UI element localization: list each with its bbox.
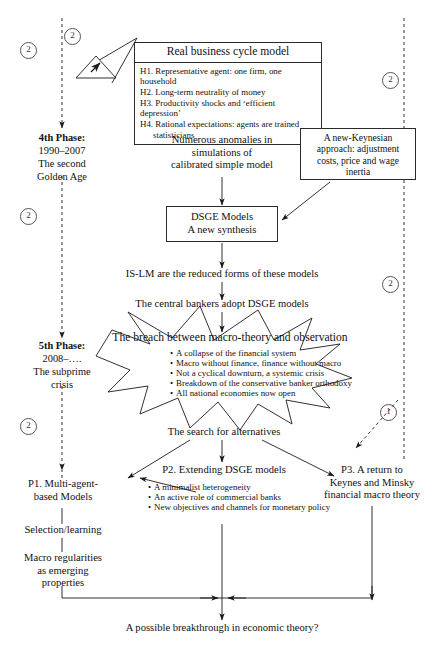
anomalies-line-2: simulations of (140, 147, 304, 160)
diagram-canvas: Real business cycle model H1. Representa… (0, 0, 433, 652)
dsge-models-box: DSGE Models A new synthesis (166, 206, 278, 242)
marker-right-top: 2 (382, 72, 399, 89)
phase-5-line-2: The subprime (6, 366, 118, 379)
is-lm-text: IS-LM are the reduced forms of these mod… (82, 268, 362, 281)
marker-left-low: 2 (20, 418, 37, 435)
central-bankers-text: The central bankers adopt DSGE models (82, 298, 362, 311)
breach-bullet-2: Macro without finance, finance without m… (170, 358, 352, 368)
phase-4-line-2: The second (6, 158, 118, 171)
marker-right-low: 1 (380, 404, 397, 421)
marker-top-triangle: 2 (64, 28, 81, 45)
search-alternatives-text: The search for alternatives (140, 426, 308, 439)
breach-title: The breach between macro-theory and obse… (106, 331, 354, 345)
p1-step2-line-1: Macro regularities (2, 552, 124, 565)
marker-right-mid: 2 (382, 276, 399, 293)
anomalies-line-1: Numerous anomalies in (140, 134, 304, 147)
rbc-header: Real business cycle model (135, 43, 321, 63)
phase-5-line-3: crisis (6, 379, 118, 392)
rbc-h2: H2. Long-term neutrality of money (140, 87, 317, 98)
p1-macro-regularities: Macro regularities as emerging propertie… (2, 552, 124, 590)
anomalies-line-3: calibrated simple model (140, 159, 304, 172)
phase-4-line-1: 1990–2007 (6, 145, 118, 158)
phase-5-line-1: 2008–…. (6, 353, 118, 366)
marker-left-top: 2 (20, 42, 37, 59)
phase-5-name: 5th Phase: (6, 340, 118, 353)
phase-4-name: 4th Phase: (6, 132, 118, 145)
nk-line-1: A new-Keynesian (304, 132, 412, 143)
p3-title-line-3: financial macro theory (312, 489, 432, 502)
nk-line-2: approach: adjustment (304, 143, 412, 154)
p3-title-line-1: P3. A return to (312, 464, 432, 477)
rbc-h4: H4. Rational expectations: agents are tr… (140, 119, 317, 130)
breach-bullet-list: A collapse of the financial system Macro… (170, 348, 352, 398)
p1-step2-line-3: properties (2, 577, 124, 590)
p2-bullet-2: An active role of commercial banks (148, 492, 330, 502)
p3-title: P3. A return to Keynes and Minsky financ… (312, 464, 432, 502)
breach-bullet-3: Not a cyclical downturn, a systemic cris… (170, 368, 352, 378)
breach-bullet-1: A collapse of the financial system (170, 348, 352, 358)
p3-title-line-2: Keynes and Minsky (312, 477, 432, 490)
phase-4-line-3: Golden Age (6, 171, 118, 184)
nk-line-4: inertia (304, 166, 412, 177)
p1-title: P1. Multi-agent- based Models (4, 478, 122, 503)
p1-title-line-1: P1. Multi-agent- (4, 478, 122, 491)
p2-title: P2. Extending DSGE models (142, 464, 306, 477)
phase-4-label: 4th Phase: 1990–2007 The second Golden A… (6, 132, 118, 184)
marker-left-mid: 2 (20, 208, 37, 225)
real-business-cycle-box: Real business cycle model H1. Representa… (134, 42, 322, 145)
dsge-line-2: A new synthesis (169, 224, 275, 237)
dsge-line-1: DSGE Models (169, 211, 275, 224)
breach-bullet-4: Breakdown of the conservative banker ort… (170, 378, 352, 388)
p1-selection-learning: Selection/learning (2, 524, 124, 537)
phase-5-label: 5th Phase: 2008–…. The subprime crisis (6, 340, 118, 392)
new-keynesian-box: A new-Keynesian approach: adjustment cos… (300, 128, 416, 180)
anomalies-text: Numerous anomalies in simulations of cal… (140, 134, 304, 172)
p2-bullet-list: A minimalist heterogeneity An active rol… (148, 482, 330, 512)
nk-line-3: costs, price and wage (304, 155, 412, 166)
conclusion-text: A possible breakthrough in economic theo… (96, 622, 348, 635)
rbc-h1: H1. Representative agent: one firm, one … (140, 66, 317, 87)
p1-step2-line-2: as emerging (2, 565, 124, 578)
rbc-h3: H3. Productivity shocks and ‘efficient d… (140, 98, 317, 119)
p2-bullet-1: A minimalist heterogeneity (148, 482, 330, 492)
breach-bullet-5: All national economies now open (170, 388, 352, 398)
p2-bullet-3: New objectives and channels for monetary… (148, 502, 330, 512)
p1-title-line-2: based Models (4, 491, 122, 504)
